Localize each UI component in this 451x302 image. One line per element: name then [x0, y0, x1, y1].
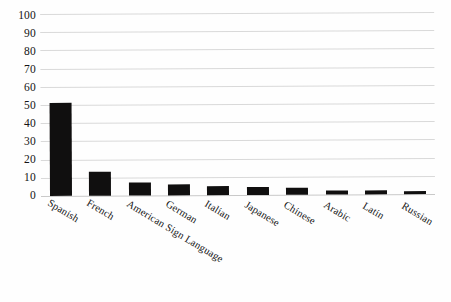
bar-series — [40, 12, 435, 196]
y-tick-label: 70 — [24, 64, 36, 76]
bar — [89, 172, 111, 196]
y-tick-label: 80 — [24, 46, 36, 58]
bar — [168, 184, 190, 195]
bar — [128, 183, 150, 196]
bar-chart: 100 90 80 70 60 50 40 30 20 10 0 Spanish… — [0, 0, 451, 302]
y-tick-label: 90 — [24, 28, 36, 40]
x-tick-label: Spanish — [45, 198, 80, 225]
bar — [286, 187, 308, 194]
y-tick-label: 60 — [24, 82, 36, 94]
bar — [49, 103, 71, 196]
x-tick-label: Latin — [360, 201, 385, 222]
y-tick-label: 20 — [24, 154, 36, 166]
x-tick-label: French — [85, 198, 116, 222]
y-tick-label: 30 — [24, 136, 36, 148]
y-axis: 100 90 80 70 60 50 40 30 20 10 0 — [0, 0, 36, 205]
x-tick-label: Chinese — [282, 200, 317, 227]
x-tick-label: Arabic — [321, 200, 352, 224]
x-tick-label: Italian — [203, 199, 232, 222]
bar — [325, 191, 347, 195]
bar — [365, 191, 387, 195]
y-tick-label: 40 — [24, 118, 36, 130]
x-tick-label: Japanese — [242, 200, 280, 229]
bar — [247, 187, 269, 195]
y-tick-label: 50 — [24, 100, 36, 112]
chart-root: 100 90 80 70 60 50 40 30 20 10 0 Spanish… — [0, 0, 451, 302]
y-tick-label: 10 — [24, 172, 36, 184]
bar — [207, 186, 229, 195]
x-tick-label: Russian — [400, 201, 435, 228]
bar — [404, 191, 426, 194]
x-axis: SpanishFrenchAmerican Sign LanguageGerma… — [41, 198, 435, 298]
y-tick-label: 100 — [18, 10, 36, 22]
y-tick-label: 0 — [30, 190, 36, 202]
plot-area — [41, 14, 435, 196]
